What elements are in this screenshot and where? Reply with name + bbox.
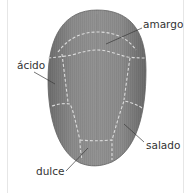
label-salado: salado: [146, 140, 180, 151]
label-amargo: amargo: [143, 19, 183, 30]
tongue-shape: [48, 10, 146, 166]
label-acido: ácido: [17, 60, 45, 71]
label-dulce: dulce: [36, 166, 64, 177]
